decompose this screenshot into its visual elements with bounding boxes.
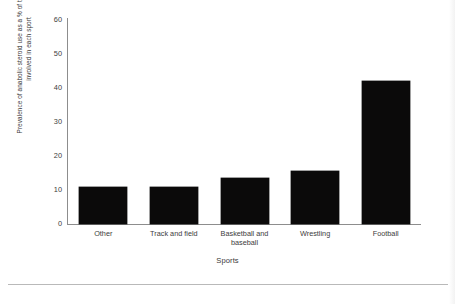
page-bottom-rule [8, 284, 448, 285]
y-tick-label-0: 0 [36, 220, 62, 228]
bar-other [79, 187, 127, 224]
y-tick-label-10: 10 [36, 186, 62, 194]
y-tick-label-60: 60 [36, 16, 62, 24]
y-tick-label-40: 40 [36, 84, 62, 92]
bar-basketball-and-baseball [221, 178, 269, 224]
x-axis-line [67, 224, 421, 225]
bar-chart-figure: Prevalence of anabolic steroid use as a … [0, 0, 455, 304]
bar-track-and-field [150, 187, 198, 224]
bar-football [362, 81, 410, 224]
y-tick-label-50: 50 [36, 50, 62, 58]
y-tick-label-20: 20 [36, 152, 62, 160]
x-tick-label-wrestling: Wrestling [278, 229, 352, 238]
y-tick-label-30: 30 [36, 118, 62, 126]
x-tick-label-basketball-and-baseball: Basketball and baseball [208, 229, 282, 248]
bar-wrestling [291, 171, 339, 224]
x-tick-label-track-and-field: Track and field [137, 229, 211, 238]
plot-area [68, 18, 421, 224]
x-tick-label-other: Other [66, 229, 140, 238]
x-axis-title: Sports [0, 256, 455, 265]
x-tick-label-football: Football [349, 229, 423, 238]
